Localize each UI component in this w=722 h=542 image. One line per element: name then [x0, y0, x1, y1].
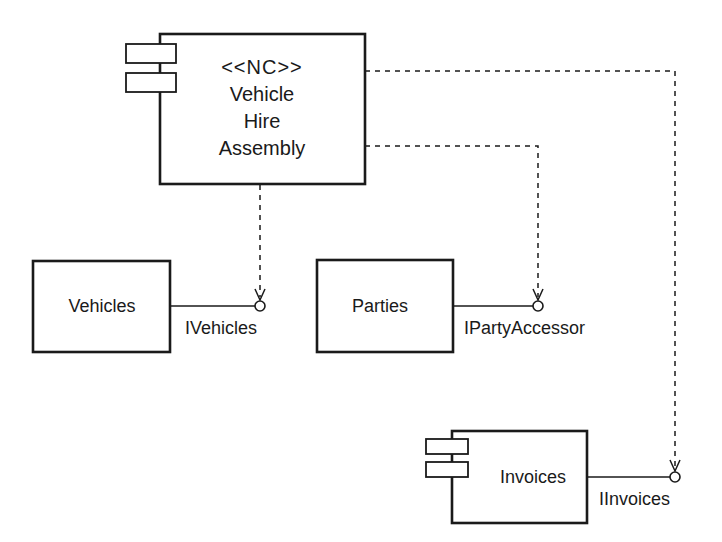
interface-ivehicles[interactable]: IVehicles [170, 301, 265, 338]
lollipop-interface-icon [255, 301, 265, 311]
dependency-assembly-to-ivehicles [255, 185, 265, 300]
open-arrowhead-icon [255, 289, 265, 300]
component-name: Parties [352, 296, 408, 316]
component-invoices[interactable]: Invoices [426, 431, 587, 523]
stereotype-label: <<NC>> [221, 56, 303, 78]
lollipop-interface-icon [533, 301, 543, 311]
component-name-line-3: Assembly [219, 137, 306, 159]
interface-iinvoices[interactable]: IInvoices [587, 472, 680, 509]
component-diagram: <<NC>> Vehicle Hire Assembly Vehicles IV… [0, 0, 722, 542]
component-name: Invoices [500, 467, 566, 487]
component-name: Vehicles [68, 296, 135, 316]
interface-label: IInvoices [599, 489, 670, 509]
interface-label: IVehicles [185, 318, 257, 338]
interface-ipartyaccessor[interactable]: IPartyAccessor [453, 301, 585, 338]
component-vehicles[interactable]: Vehicles [33, 261, 170, 352]
lollipop-interface-icon [670, 472, 680, 482]
interface-label: IPartyAccessor [464, 318, 585, 338]
component-parties[interactable]: Parties [317, 260, 453, 352]
component-name-line-1: Vehicle [230, 83, 295, 105]
component-vehicle-hire-assembly[interactable]: <<NC>> Vehicle Hire Assembly [126, 34, 365, 184]
component-name-line-2: Hire [244, 110, 281, 132]
